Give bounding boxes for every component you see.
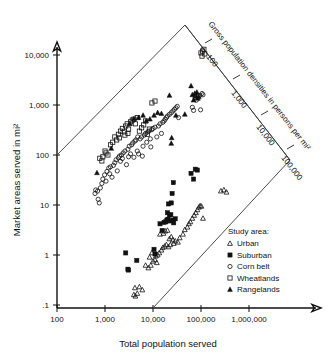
- data-point: [182, 112, 187, 117]
- legend-item-label: Corn belt: [237, 262, 270, 271]
- data-point: [124, 163, 128, 167]
- data-point: [159, 111, 164, 116]
- legend-title: Study area:: [228, 227, 269, 236]
- data-point: [189, 83, 194, 88]
- data-point: [189, 171, 193, 175]
- data-point: [143, 263, 148, 268]
- series-suburban: [124, 167, 200, 272]
- data-point: [115, 169, 119, 173]
- density-tick-100000: [287, 145, 294, 149]
- scatter-chart-figure: .1 1 10 100 1,000 10,000 100 1,000 10,00…: [0, 0, 331, 355]
- x-ticklabel-2: 10,000: [141, 315, 166, 324]
- density-ticklabel-1: 1,000: [229, 89, 249, 111]
- data-point: [108, 172, 112, 176]
- x-axis-tick-labels: 100 1,000 10,000 100,000 1,000,000: [50, 315, 267, 324]
- data-point: [191, 177, 195, 181]
- y-ticklabel-4: 1,000: [29, 101, 50, 110]
- data-point: [152, 247, 156, 251]
- legend-item-suburban[interactable]: Suburban: [228, 251, 272, 260]
- series-urban: [131, 187, 228, 298]
- x-ticklabel-1: 1,000: [95, 315, 116, 324]
- data-points-layer: [93, 47, 229, 298]
- data-point: [169, 201, 173, 205]
- y-ticklabel-0: .1: [42, 301, 49, 310]
- y-axis-tick-labels: .1 1 10 100 1,000 10,000: [25, 51, 50, 310]
- density-tick-10000: [261, 111, 268, 115]
- data-point: [126, 127, 130, 131]
- data-point: [169, 135, 174, 140]
- data-point: [126, 268, 130, 272]
- data-point: [155, 135, 159, 139]
- legend-marker-open-triangle-icon: [228, 241, 233, 246]
- data-point: [140, 287, 145, 292]
- data-point: [170, 191, 174, 195]
- data-point: [137, 284, 142, 289]
- density-axis-ticks: [205, 39, 294, 149]
- data-point: [165, 211, 169, 215]
- data-point: [124, 251, 128, 255]
- legend-item-label: Wheatlands: [237, 274, 279, 283]
- data-point: [149, 145, 153, 149]
- x-axis-title: Total population served: [119, 338, 217, 349]
- legend-item-label: Urban: [237, 239, 259, 248]
- chart-legend: Study area: UrbanSuburbanCorn beltWheatl…: [228, 227, 280, 294]
- data-point: [147, 255, 152, 260]
- data-point: [140, 154, 144, 158]
- y-ticklabel-1: 1: [45, 251, 50, 260]
- legend-item-rangelands[interactable]: Rangelands: [228, 285, 280, 294]
- data-point: [201, 216, 206, 221]
- legend-item-label: Suburban: [237, 251, 272, 260]
- data-point: [173, 217, 177, 221]
- legend-marker-filled-triangle-icon: [228, 287, 233, 292]
- data-point: [171, 181, 175, 185]
- density-tick-1000: [233, 75, 240, 79]
- x-ticklabel-4: 1,000,000: [231, 315, 267, 324]
- y-ticklabel-5: 10,000: [25, 51, 50, 60]
- data-point: [169, 141, 174, 146]
- legend-item-label: Rangelands: [237, 285, 280, 294]
- data-point: [135, 258, 139, 262]
- data-point: [167, 93, 172, 98]
- data-point: [95, 170, 100, 175]
- data-point: [173, 113, 178, 118]
- density-ticklabel-3: 100,000: [279, 154, 304, 183]
- data-point: [148, 137, 152, 141]
- data-point: [158, 222, 162, 226]
- y-ticklabel-2: 10: [40, 201, 49, 210]
- data-point: [181, 232, 186, 237]
- x-ticklabel-0: 100: [50, 315, 64, 324]
- y-axis-title: Market areas served in mi²: [11, 124, 22, 236]
- data-point: [141, 113, 146, 118]
- data-point: [185, 225, 190, 230]
- data-point: [168, 219, 172, 223]
- data-point: [141, 144, 145, 148]
- data-point: [159, 131, 163, 135]
- x-ticklabel-3: 100,000: [187, 315, 216, 324]
- data-point: [100, 181, 104, 185]
- data-point: [160, 228, 164, 232]
- data-point: [155, 110, 160, 115]
- data-point: [98, 186, 102, 190]
- data-point: [132, 155, 136, 159]
- data-point: [145, 140, 149, 144]
- legend-marker-open-circle-icon: [228, 264, 232, 268]
- legend-marker-open-square-icon: [228, 276, 232, 280]
- density-ticklabel-2: 10,000: [254, 123, 276, 148]
- y-ticklabel-3: 100: [36, 151, 50, 160]
- data-point: [195, 168, 199, 172]
- data-point: [153, 252, 157, 256]
- chart-canvas: .1 1 10 100 1,000 10,000 100 1,000 10,00…: [0, 0, 331, 355]
- data-point: [198, 108, 202, 112]
- data-point: [104, 179, 108, 183]
- legend-item-wheatlands[interactable]: Wheatlands: [228, 274, 279, 283]
- density-tick-100: [205, 39, 212, 43]
- legend-item-corn-belt[interactable]: Corn belt: [228, 262, 270, 271]
- legend-item-urban[interactable]: Urban: [228, 239, 259, 248]
- legend-marker-filled-square-icon: [228, 253, 232, 257]
